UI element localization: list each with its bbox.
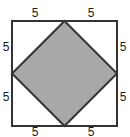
segment-label-left-upper: 5	[0, 41, 13, 53]
segment-label-top-right: 5	[84, 7, 98, 19]
geometry-figure: 5 5 5 5 5 5 5 5	[0, 0, 130, 137]
figure-canvas	[0, 0, 130, 137]
segment-label-bottom-left: 5	[28, 126, 42, 137]
segment-label-right-lower: 5	[116, 91, 130, 103]
segment-label-top-left: 5	[28, 7, 42, 19]
segment-label-left-lower: 5	[0, 91, 13, 103]
segment-label-bottom-right: 5	[84, 126, 98, 137]
segment-label-right-upper: 5	[116, 41, 130, 53]
